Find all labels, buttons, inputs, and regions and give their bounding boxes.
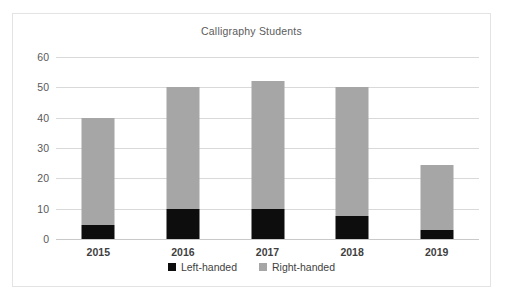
plot-area: 0102030405060 20152016201720182019 xyxy=(56,57,479,239)
legend-swatch-icon-right-handed xyxy=(259,263,267,271)
bar-group-2017[interactable]: 2017 xyxy=(251,57,284,239)
bar-segment-2015-left-handed[interactable] xyxy=(82,225,115,239)
bar-segment-2017-left-handed[interactable] xyxy=(251,209,284,239)
bar-segment-2018-left-handed[interactable] xyxy=(336,216,369,239)
bar-series-container: 20152016201720182019 xyxy=(56,57,479,239)
bar-segment-2015-right-handed[interactable] xyxy=(82,118,115,226)
legend-swatch-icon-left-handed xyxy=(168,263,176,271)
bar-segment-2017-right-handed[interactable] xyxy=(251,81,284,208)
bar-group-2015[interactable]: 2015 xyxy=(82,57,115,239)
y-tick-label-30: 30 xyxy=(37,142,49,154)
legend-item-left-handed[interactable]: Left-handed xyxy=(168,261,237,273)
y-tick-label-50: 50 xyxy=(37,81,49,93)
bar-group-2019[interactable]: 2019 xyxy=(420,57,453,239)
legend-label-left-handed: Left-handed xyxy=(181,261,237,273)
x-tick-label-2019: 2019 xyxy=(377,246,497,258)
bar-segment-2019-left-handed[interactable] xyxy=(420,230,453,239)
legend-label-right-handed: Right-handed xyxy=(272,261,335,273)
y-tick-label-0: 0 xyxy=(43,233,49,245)
bar-group-2016[interactable]: 2016 xyxy=(166,57,199,239)
chart-legend: Left-handedRight-handed xyxy=(13,261,490,273)
y-tick-label-40: 40 xyxy=(37,112,49,124)
y-tick-label-60: 60 xyxy=(37,51,49,63)
chart-title: Calligraphy Students xyxy=(13,25,490,37)
bar-segment-2018-right-handed[interactable] xyxy=(336,87,369,216)
legend-item-right-handed[interactable]: Right-handed xyxy=(259,261,335,273)
bar-segment-2019-right-handed[interactable] xyxy=(420,165,453,230)
y-tick-label-20: 20 xyxy=(37,172,49,184)
y-tick-label-10: 10 xyxy=(37,203,49,215)
gridline-0 xyxy=(56,239,479,240)
bar-group-2018[interactable]: 2018 xyxy=(336,57,369,239)
chart-card: Calligraphy Students 0102030405060 20152… xyxy=(12,13,491,287)
bar-segment-2016-right-handed[interactable] xyxy=(166,87,199,208)
bar-segment-2016-left-handed[interactable] xyxy=(166,209,199,239)
